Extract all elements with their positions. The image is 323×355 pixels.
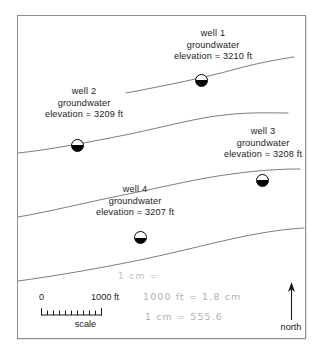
well-1-elevation: elevation = 3210 ft	[148, 51, 278, 63]
contour-line-3207	[18, 228, 304, 281]
well-1-sublabel: groundwater	[148, 40, 278, 52]
scale-min-label: 0	[39, 292, 44, 302]
well-3-elevation: elevation = 3208 ft	[198, 149, 323, 161]
well-4-name: well 4	[70, 184, 200, 196]
scale-max-label: 1000 ft	[91, 292, 119, 302]
well-2-label-block: well 2 groundwater elevation = 3209 ft	[19, 86, 149, 121]
well-3-name: well 3	[198, 126, 323, 138]
well-2-name: well 2	[19, 86, 149, 98]
well-4-label-block: well 4 groundwater elevation = 3207 ft	[70, 184, 200, 219]
handwritten-note-feet-to-cm: 1000 ft = 1.8 cm	[143, 291, 241, 302]
well-symbol-icon-well-2	[71, 139, 84, 152]
well-symbol-icon-well-1	[195, 74, 208, 87]
scale-bar: 0 1000 ft scale	[36, 292, 146, 329]
well-4-elevation: elevation = 3207 ft	[70, 207, 200, 219]
north-caption: north	[263, 322, 319, 332]
well-3-label-block: well 3 groundwater elevation = 3208 ft	[198, 126, 323, 161]
well-symbol-icon-well-3	[256, 174, 269, 187]
handwritten-note-cm-to-feet: 1 cm = 555.6	[145, 311, 223, 322]
scale-caption: scale	[38, 319, 133, 329]
well-4-sublabel: groundwater	[70, 196, 200, 208]
well-1-label-block: well 1 groundwater elevation = 3210 ft	[148, 28, 278, 63]
north-arrow: north	[263, 282, 319, 332]
scale-bar-end-labels: 0 1000 ft	[36, 292, 146, 305]
north-arrow-icon	[285, 282, 298, 320]
well-1-name: well 1	[148, 28, 278, 40]
well-3-sublabel: groundwater	[198, 138, 323, 150]
scale-ruler-ticks	[36, 306, 136, 317]
well-symbol-icon-well-4	[134, 231, 147, 244]
groundwater-contour-map-figure: well 1 groundwater elevation = 3210 ft w…	[0, 0, 323, 355]
well-2-sublabel: groundwater	[19, 98, 149, 110]
handwritten-note-conversion-start: 1 cm =	[118, 271, 159, 281]
well-2-elevation: elevation = 3209 ft	[19, 109, 149, 121]
